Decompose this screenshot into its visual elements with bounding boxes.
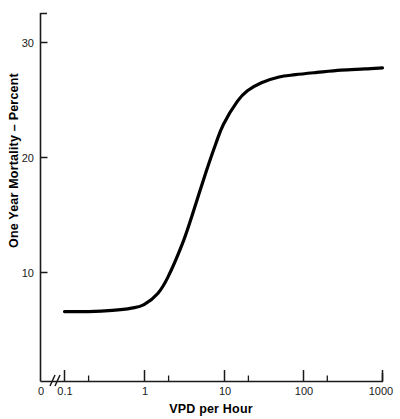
chart-background bbox=[0, 0, 400, 419]
y-ticklabel-30: 30 bbox=[22, 37, 34, 49]
mortality-vpd-line-chart: 30 20 10 One Year Mortality – Percent bbox=[0, 0, 400, 419]
x-ticklabel-1000: 1000 bbox=[369, 385, 393, 397]
x-ticklabel-0p1: 0.1 bbox=[57, 385, 72, 397]
y-ticklabel-20: 20 bbox=[22, 152, 34, 164]
x-ticklabel-1: 1 bbox=[142, 385, 148, 397]
chart-figure: 30 20 10 One Year Mortality – Percent bbox=[0, 0, 400, 419]
x-ticklabel-10: 10 bbox=[219, 385, 231, 397]
x-axis-title: VPD per Hour bbox=[169, 402, 253, 416]
y-ticklabel-10: 10 bbox=[22, 267, 34, 279]
x-ticklabel-0: 0 bbox=[38, 385, 44, 397]
x-ticklabel-100: 100 bbox=[295, 385, 313, 397]
y-axis-title: One Year Mortality – Percent bbox=[7, 72, 21, 248]
